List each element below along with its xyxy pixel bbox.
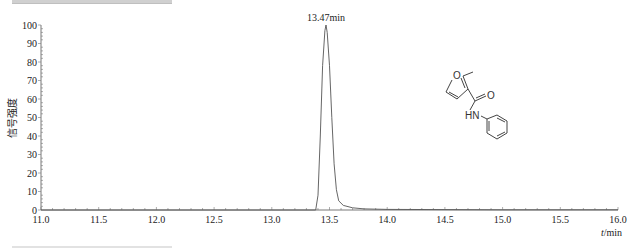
peak-annotation: 13.47min (307, 12, 345, 23)
y-tick-label: 50 (27, 112, 37, 123)
y-tick-label: 100 (22, 20, 37, 31)
y-tick-label: 40 (27, 131, 37, 142)
molecule-structure (446, 72, 507, 139)
bond (457, 89, 468, 99)
x-tick-label: 14.0 (378, 214, 396, 225)
y-tick-label: 30 (27, 149, 37, 160)
y-tick-label: 20 (27, 168, 37, 179)
bond (446, 80, 452, 92)
chromatogram-chart: 0102030405060708090100 11.011.512.012.51… (0, 0, 636, 248)
x-tick-label: 12.5 (205, 214, 223, 225)
y-tick-label: 70 (27, 75, 37, 86)
y-axis-title: 信号强度 (6, 98, 18, 138)
x-tick-label: 16.0 (609, 214, 627, 225)
y-tick-label: 80 (27, 57, 37, 68)
phenyl-ring (487, 115, 507, 139)
y-tick-label: 90 (27, 38, 37, 49)
bond (475, 96, 486, 101)
x-tick-label: 12.0 (148, 214, 166, 225)
x-tick-label: 11.0 (32, 214, 49, 225)
x-axis-title-unit: /min (604, 227, 622, 238)
bond (468, 89, 475, 101)
x-tick-label: 15.5 (552, 214, 570, 225)
bond (463, 72, 473, 76)
x-tick-label: 14.5 (436, 214, 454, 225)
x-axis-title: t/min (601, 227, 622, 238)
y-tick-label: 10 (27, 186, 37, 197)
bond (481, 116, 487, 119)
chromatogram-line (41, 25, 618, 210)
x-tick-label: 13.0 (263, 214, 281, 225)
y-axis: 0102030405060708090100 (22, 20, 43, 216)
atom-label-carbonyl-oxygen: O (487, 90, 495, 101)
bond (463, 76, 468, 89)
x-tick-label: 13.5 (321, 214, 339, 225)
bond (470, 101, 475, 110)
x-tick-label: 15.0 (494, 214, 512, 225)
x-tick-label: 11.5 (90, 214, 107, 225)
y-tick-label: 60 (27, 94, 37, 105)
atom-label-nh: HN (465, 110, 479, 121)
atom-label-ring-oxygen: O (453, 70, 461, 81)
